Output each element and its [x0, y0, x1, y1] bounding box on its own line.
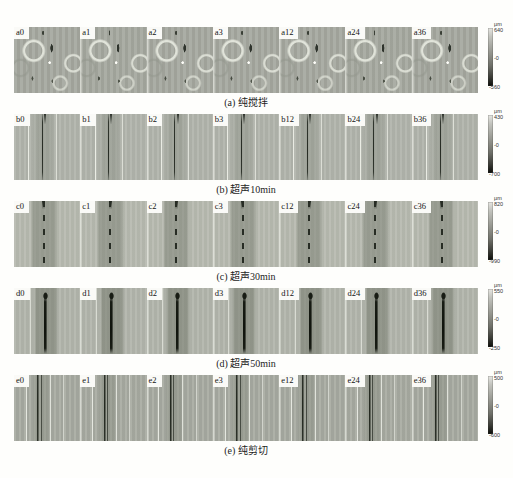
strip-wrap: b0b1b2b3b12b24b36 μm 430 -0 -700	[14, 114, 478, 180]
figure-row-a: a0a1a2a3a12a24a36 μm 640 -0 -560 (a) 纯搅拌	[0, 27, 513, 109]
panel-e36: e36	[412, 375, 478, 441]
panel-a3: a3	[213, 27, 279, 93]
colorbar-max-label: 550	[494, 288, 503, 294]
figure-row-d: d0d1d2d3d12d24d36 μm 550 -0 -250 (d) 超声5…	[0, 288, 513, 370]
panel-a2: a2	[147, 27, 213, 93]
panel-label: a2	[147, 27, 162, 39]
panel-d2: d2	[147, 288, 213, 354]
panel-label: d12	[279, 288, 299, 300]
colorbar-max-label: 500	[494, 375, 503, 381]
panel-label: d0	[14, 288, 30, 300]
panel-label: e1	[80, 375, 95, 387]
panel-e24: e24	[345, 375, 411, 441]
panel-label: a3	[213, 27, 228, 39]
panel-label: c24	[345, 201, 364, 213]
colorbar-mid-label: -0	[494, 229, 499, 235]
panel-e2: e2	[147, 375, 213, 441]
image-strip: d0d1d2d3d12d24d36	[14, 288, 478, 354]
panel-e3: e3	[213, 375, 279, 441]
panel-c2: c2	[147, 201, 213, 267]
panel-label: c12	[279, 201, 298, 213]
colorbar-max-label: 820	[494, 201, 503, 207]
panel-label: a36	[412, 27, 431, 39]
panel-label: b24	[345, 114, 365, 126]
panel-b12: b12	[279, 114, 345, 180]
figure-row-e: e0e1e2e3e12e24e36 μm 500 -0 -600 (e) 纯剪切	[0, 375, 513, 457]
panel-label: a1	[80, 27, 95, 39]
image-strip: b0b1b2b3b12b24b36	[14, 114, 478, 180]
colorbar-min-label: -250	[489, 345, 500, 351]
colorbar-max-label: 430	[494, 114, 503, 120]
panel-b24: b24	[345, 114, 411, 180]
panel-a1: a1	[80, 27, 146, 93]
panel-label: e0	[14, 375, 29, 387]
panel-label: c0	[14, 201, 29, 213]
row-caption: (e) 纯剪切	[14, 444, 478, 457]
panel-label: d3	[213, 288, 229, 300]
colorbar-gradient	[488, 289, 493, 347]
panel-b1: b1	[80, 114, 146, 180]
colorbar-gradient	[488, 28, 493, 86]
colorbar-mid-label: -0	[494, 55, 499, 61]
panel-e0: e0	[14, 375, 80, 441]
panel-c24: c24	[345, 201, 411, 267]
panel-d24: d24	[345, 288, 411, 354]
panel-c3: c3	[213, 201, 279, 267]
panel-label: d36	[412, 288, 432, 300]
panel-d36: d36	[412, 288, 478, 354]
strip-wrap: c0c1c2c3c12c24c36 μm 820 -0 -990	[14, 201, 478, 267]
panel-b2: b2	[147, 114, 213, 180]
colorbar-min-label: -560	[489, 84, 500, 90]
panel-label: b12	[279, 114, 299, 126]
figure-row-b: b0b1b2b3b12b24b36 μm 430 -0 -700 (b) 超声1…	[0, 114, 513, 196]
colorbar: μm 820 -0 -990	[488, 195, 513, 275]
panel-label: e2	[147, 375, 162, 387]
panel-e12: e12	[279, 375, 345, 441]
colorbar: μm 430 -0 -700	[488, 108, 513, 188]
panel-e1: e1	[80, 375, 146, 441]
strip-wrap: d0d1d2d3d12d24d36 μm 550 -0 -250	[14, 288, 478, 354]
panel-c0: c0	[14, 201, 80, 267]
panel-a36: a36	[412, 27, 478, 93]
panel-label: c36	[412, 201, 431, 213]
panel-b0: b0	[14, 114, 80, 180]
panel-d12: d12	[279, 288, 345, 354]
colorbar-mid-label: -0	[494, 142, 499, 148]
panel-label: a12	[279, 27, 298, 39]
image-strip: c0c1c2c3c12c24c36	[14, 201, 478, 267]
panel-label: b0	[14, 114, 30, 126]
panel-label: e24	[345, 375, 364, 387]
panel-a24: a24	[345, 27, 411, 93]
panel-d3: d3	[213, 288, 279, 354]
row-caption: (c) 超声30min	[14, 270, 478, 283]
strip-wrap: a0a1a2a3a12a24a36 μm 640 -0 -560	[14, 27, 478, 93]
panel-label: e36	[412, 375, 431, 387]
panel-label: d1	[80, 288, 96, 300]
row-caption: (b) 超声10min	[14, 183, 478, 196]
panel-label: c2	[147, 201, 162, 213]
panel-c36: c36	[412, 201, 478, 267]
panel-label: b2	[147, 114, 163, 126]
panel-c12: c12	[279, 201, 345, 267]
colorbar-mid-label: -0	[494, 403, 499, 409]
colorbar: μm 550 -0 -250	[488, 282, 513, 362]
colorbar-gradient	[488, 202, 493, 260]
colorbar-min-label: -700	[489, 171, 500, 177]
strip-wrap: e0e1e2e3e12e24e36 μm 500 -0 -600	[14, 375, 478, 441]
panel-label: b3	[213, 114, 229, 126]
colorbar: μm 500 -0 -600	[488, 369, 513, 449]
panel-b36: b36	[412, 114, 478, 180]
panel-label: c1	[80, 201, 95, 213]
image-strip: a0a1a2a3a12a24a36	[14, 27, 478, 93]
colorbar-max-label: 640	[494, 27, 503, 33]
colorbar: μm 640 -0 -560	[488, 21, 513, 101]
panel-label: d24	[345, 288, 365, 300]
panel-a0: a0	[14, 27, 80, 93]
panel-d1: d1	[80, 288, 146, 354]
panel-label: b1	[80, 114, 96, 126]
panel-label: a24	[345, 27, 364, 39]
panel-b3: b3	[213, 114, 279, 180]
panel-label: e12	[279, 375, 298, 387]
panel-label: a0	[14, 27, 29, 39]
row-caption: (a) 纯搅拌	[14, 96, 478, 109]
